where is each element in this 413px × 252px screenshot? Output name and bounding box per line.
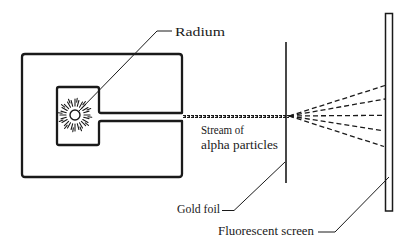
deflected-path [289, 99, 385, 116]
deflected-path [289, 115, 385, 116]
stream-label-line1: Stream of [201, 122, 244, 137]
gold-foil-leader-line [222, 162, 285, 211]
stream-label-line2: alpha particles [201, 137, 278, 152]
fluorescent-screen [386, 14, 393, 212]
rutherford-gold-foil-diagram: Radium Stream of alpha particles Gold fo… [0, 0, 413, 252]
diagram-canvas: Radium Stream of alpha particles Gold fo… [0, 0, 413, 252]
deflected-path [289, 86, 385, 117]
deflected-particle-paths [289, 86, 385, 147]
deflected-path [289, 116, 383, 131]
radium-leader-line [79, 31, 173, 112]
lead-block [22, 54, 182, 177]
radium-label: Radium [175, 24, 226, 39]
fluorescent-screen-leader-line [318, 177, 389, 232]
fluorescent-screen-label: Fluorescent screen [218, 223, 314, 238]
deflected-path [289, 116, 384, 147]
gold-foil-label: Gold foil [177, 201, 220, 216]
